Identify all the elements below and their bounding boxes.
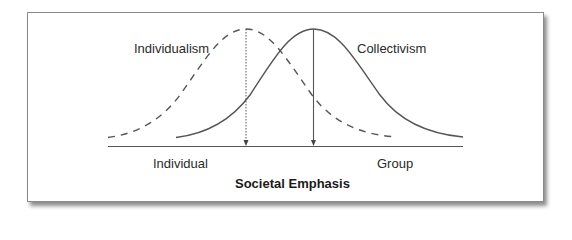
collectivism-arrowhead-icon <box>311 140 316 146</box>
axis-right-label: Group <box>377 156 413 171</box>
individualism-arrowhead-icon <box>244 140 249 146</box>
diagram-title: Societal Emphasis <box>235 176 350 191</box>
individualism-label: Individualism <box>134 41 209 56</box>
collectivism-label: Collectivism <box>357 41 426 56</box>
axis-left-label: Individual <box>153 156 208 171</box>
